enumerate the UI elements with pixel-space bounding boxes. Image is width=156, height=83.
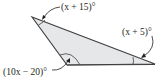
pointer-right (144, 36, 153, 56)
triangle-shape (32, 17, 155, 65)
angle-label-bottom: (10x − 20)° (3, 67, 47, 78)
angle-label-right: (x + 5)° (122, 27, 152, 38)
arrowhead-top-left (42, 15, 46, 20)
arrowhead-right (141, 53, 146, 58)
pointer-top-left (44, 7, 60, 17)
triangle-diagram: (x + 15)° (x + 5)° (10x − 20)° (0, 0, 156, 83)
angle-label-top-left: (x + 15)° (61, 2, 96, 13)
